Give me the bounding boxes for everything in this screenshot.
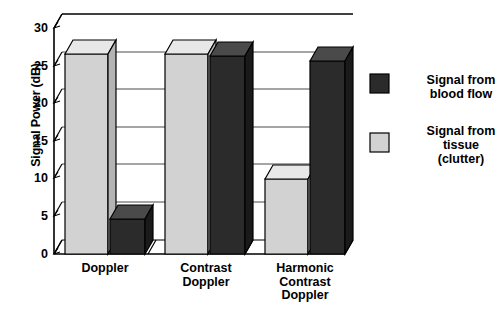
y-tick-label-5: 5 <box>22 210 48 223</box>
y-tick-label-30: 30 <box>22 22 48 35</box>
y-tick-label-20: 20 <box>22 97 48 110</box>
bar-group-2-blood <box>210 42 253 254</box>
legend-tissue-line-1: Signal from <box>396 124 500 138</box>
y-tick-label-10: 10 <box>22 172 48 185</box>
bar-group-3-tissue <box>265 165 316 254</box>
legend-label-tissue-clutter: Signal from tissue (clutter) <box>396 124 500 166</box>
x-tick-harmonic-line-2: Contrast <box>245 276 365 290</box>
legend-blood-line-1: Signal from <box>396 73 500 87</box>
bar-group-1-tissue <box>65 40 116 254</box>
legend-label-blood-flow: Signal from blood flow <box>396 73 500 101</box>
bar-group-3-blood <box>310 47 353 254</box>
x-tick-label-harmonic-contrast-doppler: Harmonic Contrast Doppler <box>245 262 365 303</box>
legend-blood-line-2: blood flow <box>396 87 500 101</box>
bar-group-1-blood <box>110 205 153 254</box>
y-axis-ticks <box>54 14 62 254</box>
x-tick-harmonic-line-1: Harmonic <box>245 262 365 276</box>
legend-swatch-blood-flow <box>370 74 389 93</box>
x-tick-harmonic-line-3: Doppler <box>245 289 365 303</box>
legend-swatch-tissue-clutter <box>370 133 389 152</box>
y-tick-label-25: 25 <box>22 60 48 73</box>
bar-group-2-tissue <box>165 40 216 254</box>
legend-tissue-line-2: tissue <box>396 138 500 152</box>
y-tick-label-15: 15 <box>22 135 48 148</box>
legend-tissue-line-3: (clutter) <box>396 152 500 166</box>
y-tick-label-0: 0 <box>22 248 48 261</box>
